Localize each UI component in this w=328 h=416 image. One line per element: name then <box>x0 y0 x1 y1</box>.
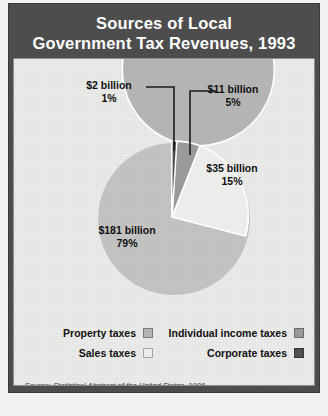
legend-swatch-property-taxes <box>143 328 153 338</box>
legend-label-corporate-taxes: Corporate taxes <box>207 347 287 359</box>
callout-eleven-billion-value: $11 billion <box>190 83 276 96</box>
figure-frame: Sources of Local Government Tax Revenues… <box>8 3 320 393</box>
legend-item-property-taxes[interactable]: Property taxes <box>14 327 165 339</box>
source-title: Statistical Abstract of the United State… <box>53 381 184 386</box>
callout-thirtyfive-value: $35 billion <box>186 162 278 175</box>
title-line-1: Sources of Local <box>96 13 232 33</box>
callout-two-billion-value: $2 billion <box>66 79 152 92</box>
legend-label-individual-income-taxes: Individual income taxes <box>169 327 287 339</box>
chart-panel: $2 billion 1% $11 billion 5% $35 billion… <box>13 58 315 386</box>
legend-item-individual-income-taxes[interactable]: Individual income taxes <box>165 327 315 339</box>
callout-oneeightyone-value: $181 billion <box>72 224 182 237</box>
pie-chart: $2 billion 1% $11 billion 5% $35 billion… <box>14 59 315 329</box>
title-line-2: Government Tax Revenues, 1993 <box>32 33 295 53</box>
callout-oneeightyone-billion: $181 billion 79% <box>72 224 182 249</box>
legend-label-property-taxes: Property taxes <box>63 327 136 339</box>
legend-item-corporate-taxes[interactable]: Corporate taxes <box>165 347 315 359</box>
legend-swatch-individual-income-taxes <box>294 328 304 338</box>
legend-label-sales-taxes: Sales taxes <box>79 347 136 359</box>
source-year: , 1996 <box>184 381 205 386</box>
callout-oneeightyone-percent: 79% <box>72 237 182 250</box>
callout-thirtyfive-percent: 15% <box>186 175 278 188</box>
chart-legend: Property taxes Individual income taxes S… <box>14 327 315 359</box>
callout-thirtyfive-billion: $35 billion 15% <box>186 162 278 187</box>
source-prefix: Source: <box>25 381 53 386</box>
callout-eleven-billion: $11 billion 5% <box>190 83 276 108</box>
legend-swatch-corporate-taxes <box>294 348 304 358</box>
callout-two-billion-percent: 1% <box>66 92 152 105</box>
chart-title: Sources of Local Government Tax Revenues… <box>13 8 315 58</box>
legend-item-sales-taxes[interactable]: Sales taxes <box>14 347 165 359</box>
callout-two-billion: $2 billion 1% <box>66 79 152 104</box>
callout-eleven-billion-percent: 5% <box>190 96 276 109</box>
legend-swatch-sales-taxes <box>143 348 153 358</box>
source-note: Source: Statistical Abstract of the Unit… <box>25 381 205 386</box>
